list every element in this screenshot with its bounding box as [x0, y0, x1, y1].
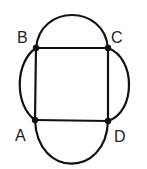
graph-diagram: A B C D: [0, 0, 147, 169]
edge-b-c-arc: [36, 15, 108, 48]
vertex-a: [32, 117, 38, 123]
vertex-b: [33, 45, 39, 51]
vertex-label-d: D: [114, 128, 126, 145]
edge-d-a-straight: [35, 120, 108, 121]
edge-a-b-arc: [20, 48, 36, 120]
vertex-label-a: A: [15, 127, 26, 144]
edge-d-a-arc: [35, 120, 108, 164]
edge-c-d-arc: [108, 48, 129, 121]
vertex-label-c: C: [111, 29, 123, 46]
vertex-label-b: B: [17, 29, 28, 46]
edge-a-b-straight: [35, 48, 36, 120]
vertex-d: [105, 118, 111, 124]
